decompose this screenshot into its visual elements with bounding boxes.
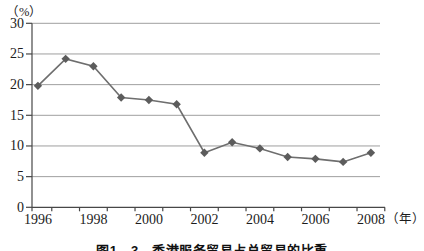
- y-tick-label: 5: [17, 169, 24, 184]
- x-tick-label: 2002: [190, 212, 218, 227]
- data-point-marker: [145, 96, 153, 104]
- data-point-marker: [228, 138, 236, 146]
- line-chart-canvas: 0510152025301996199820002002200420062008: [0, 0, 424, 251]
- data-point-marker: [367, 149, 375, 157]
- data-point-marker: [200, 149, 208, 157]
- x-tick-label: 2006: [301, 212, 329, 227]
- x-tick-label: 2004: [246, 212, 274, 227]
- data-point-marker: [283, 153, 291, 161]
- x-tick-label: 2008: [357, 212, 385, 227]
- y-axis-unit-label: （%）: [6, 1, 42, 20]
- figure-caption: 图1—3 香港服务贸易占总贸易的比重: [12, 240, 412, 251]
- data-point-marker: [339, 158, 347, 166]
- x-tick-label: 1996: [24, 212, 52, 227]
- x-axis-unit-label: （年）: [386, 208, 424, 227]
- x-tick-label: 1998: [79, 212, 107, 227]
- data-point-marker: [172, 100, 180, 108]
- y-tick-label: 25: [10, 46, 24, 61]
- y-tick-label: 15: [10, 108, 24, 123]
- figure: 0510152025301996199820002002200420062008…: [0, 0, 424, 251]
- y-tick-label: 10: [10, 138, 24, 153]
- y-tick-label: 20: [10, 77, 24, 92]
- data-point-marker: [311, 155, 319, 163]
- x-tick-label: 2000: [135, 212, 163, 227]
